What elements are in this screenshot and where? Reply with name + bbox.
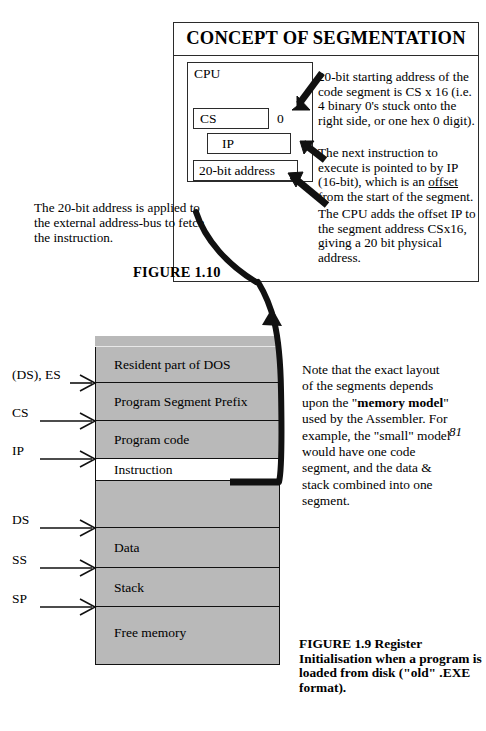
figure-page: CONCEPT OF SEGMENTATION CPU CS 0 IP 20-b…: [0, 0, 486, 731]
pointer-arrow-overlay: [0, 0, 486, 731]
